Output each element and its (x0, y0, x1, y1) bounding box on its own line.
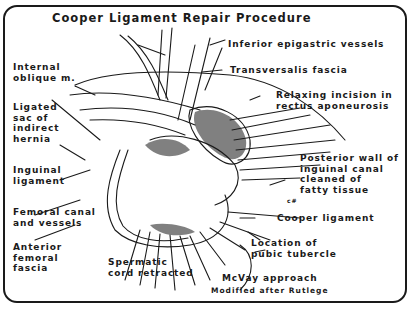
label-anterior-femoral-fascia: Anterior femoral fascia (13, 242, 62, 274)
label-inferior-epigastric-vessels: Inferior epigastric vessels (228, 39, 384, 50)
label-femoral-canal: Femoral canal and vessels (13, 207, 96, 228)
label-pubic-tubercle: Location of pubic tubercle (251, 238, 337, 259)
label-relaxing-incision: Relaxing incision in rectus aponeurosis (276, 90, 393, 111)
label-credit: Modified after Rutlege (211, 286, 329, 297)
artist-initials: c# (287, 196, 298, 207)
label-internal-oblique: Internal oblique m. (13, 62, 76, 83)
diagram-title: Cooper Ligament Repair Procedure (52, 13, 311, 24)
label-ligated-sac: Ligated sac of indirect hernia (13, 102, 59, 144)
label-inguinal-ligament: Inguinal ligament (13, 165, 65, 186)
label-posterior-wall: Posterior wall of inguinal canal cleaned… (300, 153, 399, 195)
label-spermatic-cord: Spermatic cord retracted (108, 257, 194, 278)
label-mcvay-approach: McVay approach (222, 273, 318, 284)
label-transversalis-fascia: Transversalis fascia (230, 65, 348, 76)
label-cooper-ligament: Cooper ligament (277, 213, 374, 224)
